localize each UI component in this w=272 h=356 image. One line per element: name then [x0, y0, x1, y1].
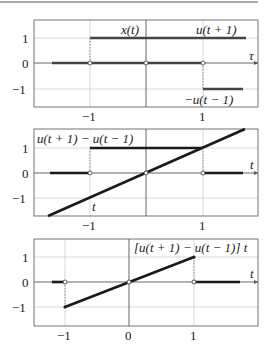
label-minus-u-t-minus-1: −u(t − 1) [184, 92, 233, 107]
axis-label-t: t [250, 157, 254, 172]
figure: 1 0 −1 −1 1 τ x(t) u(t + 1) −u(t − 1) 1 [0, 0, 272, 356]
x-axis-arrow-icon [254, 280, 258, 284]
x-axis-arrow-icon [254, 171, 258, 175]
label-rect-pulse: u(t + 1) − u(t − 1) [37, 131, 133, 146]
closed-point [192, 255, 195, 258]
ytick-0: 0 [22, 275, 29, 290]
label-x-t: x(t) [120, 22, 139, 37]
plot-3: 1 0 −1 −1 0 1 t [u(t + 1) − u(t − 1)] t [12, 239, 258, 343]
ytick-minus-1: −1 [12, 82, 26, 97]
open-point [144, 171, 148, 175]
label-u-t-plus-1: u(t + 1) [196, 22, 237, 37]
ytick-0: 0 [22, 56, 29, 71]
xtick-1: 1 [199, 218, 206, 233]
plot-1: 1 0 −1 −1 1 τ x(t) u(t + 1) −u(t − 1) [12, 20, 258, 124]
label-t: t [92, 199, 96, 214]
open-point [88, 61, 92, 65]
xtick-1: 1 [190, 328, 197, 343]
ytick-0: 0 [22, 166, 29, 181]
xtick-1: 1 [199, 109, 206, 124]
ytick-minus-1: −1 [12, 300, 26, 315]
open-point [201, 171, 205, 175]
open-point [201, 61, 205, 65]
x-axis-arrow-icon [254, 61, 258, 65]
label-product: [u(t + 1) − u(t − 1)] t [134, 240, 248, 255]
xtick-0: 0 [125, 328, 132, 343]
open-point [192, 280, 196, 284]
closed-point [63, 305, 66, 308]
ytick-1: 1 [22, 141, 29, 156]
ytick-1: 1 [22, 250, 29, 265]
xtick-minus-1: −1 [57, 328, 71, 343]
ytick-1: 1 [22, 31, 29, 46]
axis-label-t: t [250, 266, 254, 281]
open-point [63, 280, 67, 284]
axis-label-tau: τ [249, 48, 255, 63]
open-point [88, 171, 92, 175]
open-point [144, 61, 148, 65]
plot-2: 1 0 −1 −1 1 t u(t + 1) − u(t − 1) t [12, 129, 258, 233]
xtick-minus-1: −1 [82, 109, 96, 124]
ytick-minus-1: −1 [12, 191, 26, 206]
open-point [127, 280, 131, 284]
xtick-minus-1: −1 [82, 218, 96, 233]
